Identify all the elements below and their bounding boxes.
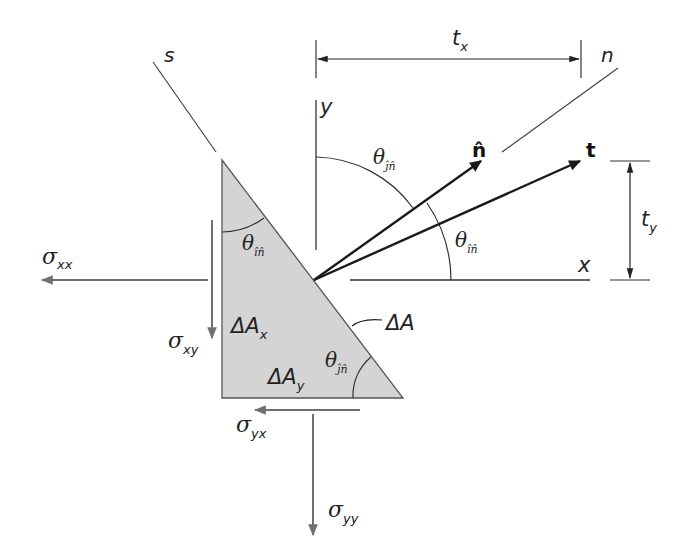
sigma-yx-label: σyx <box>236 412 267 441</box>
n-axis-line <box>502 68 618 152</box>
n-hat-label: n̂ <box>472 138 486 162</box>
sigma-xx-label: σxx <box>42 244 73 272</box>
dA-label: ΔA <box>384 311 415 335</box>
n-label: n <box>601 43 614 67</box>
theta-jn-arc <box>316 157 413 208</box>
t-vector <box>314 161 580 280</box>
theta-in-arc <box>427 203 451 280</box>
theta-in-right-label: θîn̂ <box>455 228 478 256</box>
s-axis-line <box>153 62 216 152</box>
x-label: x <box>577 253 591 277</box>
ty-label: ty <box>641 207 657 235</box>
t-label: t <box>586 138 596 162</box>
sigma-xy-label: σxy <box>168 328 199 357</box>
tx-label: tx <box>452 26 468 54</box>
s-label: s <box>164 43 174 67</box>
stress-diagram: s n y x n̂ t tx ty θĵn̂ θîn̂ θîn̂ θĵn̂ Δ… <box>0 0 684 558</box>
diagram-svg: s n y x n̂ t tx ty θĵn̂ θîn̂ θîn̂ θĵn̂ Δ… <box>0 0 684 558</box>
dA-leader-line <box>352 320 382 326</box>
stress-triangle <box>222 160 403 398</box>
n-hat-vector <box>314 161 481 280</box>
y-label: y <box>319 95 333 119</box>
sigma-yy-label: σyy <box>328 497 359 526</box>
theta-jn-top-label: θĵn̂ <box>373 145 396 173</box>
